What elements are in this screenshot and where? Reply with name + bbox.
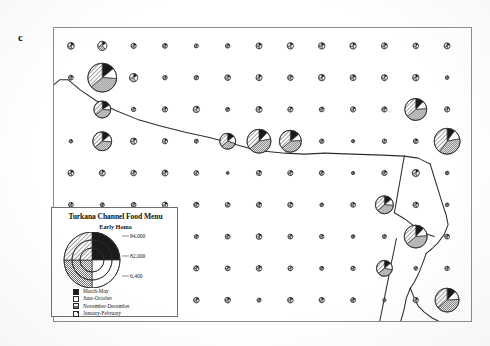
- pie-marker: [351, 298, 356, 303]
- pie-marker: [413, 298, 418, 303]
- pie-marker: [131, 43, 136, 48]
- pie-marker: [383, 299, 386, 302]
- pie-marker: [194, 171, 199, 176]
- pie-marker: [381, 43, 387, 49]
- pie-marker: [256, 106, 262, 112]
- pie-marker: [288, 107, 293, 112]
- pie-marker: [93, 132, 112, 151]
- pie-marker: [194, 44, 198, 48]
- pie-marker: [68, 43, 75, 50]
- pie-marker: [413, 43, 419, 49]
- pie-marker: [256, 266, 262, 272]
- pie-marker: [193, 106, 199, 112]
- pie-marker: [288, 234, 293, 239]
- pie-marker: [163, 75, 167, 79]
- pie-marker: [225, 297, 231, 303]
- pie-marker: [288, 202, 293, 207]
- pie-marker: [288, 75, 294, 81]
- pie-marker: [445, 266, 449, 270]
- pie-marker: [69, 139, 73, 143]
- legend-key-january-february: January-February: [73, 310, 177, 317]
- legend-key-june-october: June-October: [73, 295, 177, 302]
- legend-pie-ring: [80, 248, 104, 272]
- channel-branch-a: [394, 156, 404, 213]
- pie-marker: [225, 266, 230, 271]
- channel-branch-b: [426, 164, 448, 253]
- legend-key-label: January-February: [83, 310, 121, 316]
- pie-marker: [88, 63, 117, 92]
- legend-key-label: November-December: [83, 303, 130, 309]
- pie-marker: [194, 266, 199, 271]
- pie-marker: [319, 74, 325, 80]
- pie-marker: [163, 43, 168, 48]
- pie-marker: [256, 75, 262, 81]
- pie-marker: [288, 297, 294, 303]
- pie-marker: [288, 170, 293, 175]
- panel-label: c: [18, 31, 23, 43]
- pie-marker: [220, 133, 236, 149]
- pie-marker: [226, 107, 230, 111]
- pie-marker: [405, 99, 427, 121]
- pie-marker: [131, 107, 135, 111]
- pie-marker: [320, 139, 324, 143]
- pie-marker: [162, 139, 167, 144]
- pie-marker: [319, 171, 324, 176]
- pie-marker: [444, 43, 450, 49]
- pie-marker: [279, 130, 301, 152]
- swatch-solid-black-icon: [73, 289, 79, 295]
- pie-marker: [98, 41, 107, 50]
- pie-marker: [130, 138, 136, 144]
- pie-marker: [350, 75, 356, 81]
- legend-panel: Turkana Channel Food Menu Early Homo: [51, 207, 178, 317]
- pie-marker: [382, 139, 386, 143]
- pie-marker: [319, 298, 324, 303]
- scale-label-3: 6,400: [130, 273, 143, 279]
- pie-marker: [351, 235, 355, 239]
- pie-marker: [226, 172, 229, 175]
- pie-marker: [256, 234, 262, 240]
- pie-marker: [351, 171, 354, 174]
- pie-marker: [257, 298, 261, 302]
- pie-marker: [412, 169, 419, 176]
- channel-branch-d: [410, 253, 426, 288]
- pie-marker: [94, 101, 111, 118]
- legend-key-march-may: March-May: [73, 288, 177, 295]
- pie-marker: [225, 44, 229, 48]
- pie-marker: [194, 297, 200, 303]
- legend-size-scale: 84,000 82,000 6,400: [122, 232, 178, 290]
- legend-key-list: March-May June-October November-December…: [73, 288, 177, 318]
- channel-branch-g: [390, 239, 396, 267]
- pie-marker: [69, 75, 74, 80]
- legend-subtitle: Early Homo: [52, 223, 179, 230]
- pie-marker: [319, 107, 324, 112]
- pie-marker: [247, 129, 271, 153]
- pie-marker: [68, 170, 74, 176]
- pie-marker: [131, 170, 137, 176]
- legend-title: Turkana Channel Food Menu: [52, 212, 179, 221]
- pie-marker: [194, 75, 198, 79]
- pie-marker: [225, 234, 230, 239]
- pie-marker: [129, 73, 137, 81]
- scale-label-1: 84,000: [130, 233, 145, 239]
- legend-key-label: March-May: [83, 288, 109, 294]
- legend-pie-svg: [63, 232, 125, 288]
- legend-key-label: June-October: [83, 295, 112, 301]
- pie-marker: [382, 170, 387, 175]
- pie-marker: [413, 74, 419, 80]
- pie-marker: [445, 203, 449, 207]
- pie-marker: [320, 203, 324, 207]
- pie-marker: [375, 196, 393, 214]
- pie-marker: [194, 202, 199, 207]
- pie-marker: [288, 266, 293, 271]
- swatch-stipple-icon: [73, 303, 79, 309]
- pie-marker: [413, 202, 419, 208]
- pie-marker: [162, 107, 167, 112]
- pie-marker: [381, 75, 387, 81]
- pie-marker: [320, 266, 324, 270]
- pie-marker: [225, 75, 231, 81]
- pie-marker: [351, 140, 354, 143]
- pie-marker: [287, 43, 293, 49]
- swatch-hatch-icon: [73, 311, 79, 317]
- pie-marker: [99, 170, 105, 176]
- pie-marker: [256, 202, 261, 207]
